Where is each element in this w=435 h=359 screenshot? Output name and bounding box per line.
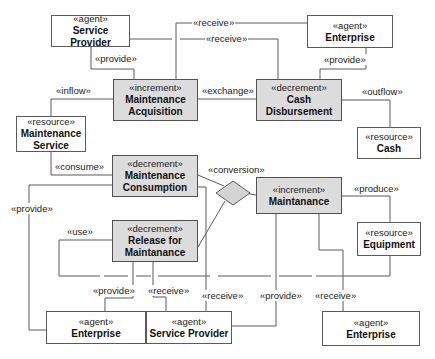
node-name: Enterprise (346, 329, 395, 341)
node-name-line1: Maintenance (21, 128, 82, 140)
label-receive-second: «receive» (205, 33, 248, 44)
resource-cash: «resource» Cash (357, 127, 421, 159)
event-maintenance-consumption: «decrement» Maintenance Consumption (112, 155, 198, 197)
node-name: Maintanance (269, 196, 330, 208)
label-provide-bottom-left: «provide» (92, 285, 136, 296)
stereotype: «agent» (333, 20, 367, 32)
label-outflow: «outflow» (361, 86, 404, 97)
label-provide-service-provider: «provide» (94, 53, 138, 64)
node-name-line2: Service (33, 140, 69, 152)
node-name-line1: Release for (128, 235, 182, 247)
node-name: Equipment (363, 239, 415, 251)
stereotype: «agent» (79, 316, 113, 328)
label-provide-middle: «provide» (259, 290, 303, 301)
stereotype: «resource» (365, 131, 413, 143)
label-use: «use» (66, 226, 94, 237)
agent-enterprise-top: «agent» Enterprise (307, 15, 393, 48)
label-exchange: «exchange» (201, 85, 255, 96)
label-produce: «produce» (353, 183, 400, 194)
node-name-line1: Maintenance (125, 170, 186, 182)
label-receive-bottom-left: «receive» (147, 285, 190, 296)
stereotype: «decrement» (127, 223, 182, 235)
label-provide-left: «provide» (10, 203, 54, 214)
rea-diagram: «agent» Service Provider «agent» Enterpr… (0, 0, 435, 359)
label-consume: «consume» (54, 161, 105, 172)
resource-maintenance-service: «resource» Maintenance Service (16, 116, 86, 152)
stereotype: «resource» (27, 116, 75, 128)
node-name: Cash (377, 143, 401, 155)
node-name: Enterprise (325, 32, 374, 44)
stereotype: «decrement» (127, 158, 182, 170)
node-name-line2: Disbursement (266, 106, 333, 118)
node-name: Service Provider (52, 25, 129, 49)
label-receive-middle: «receive» (201, 290, 244, 301)
label-provide-enterprise: «provide» (323, 54, 367, 65)
stereotype: «increment» (129, 82, 181, 94)
agent-service-provider-bottom: «agent» Service Provider (146, 311, 232, 344)
stereotype: «resource» (365, 227, 413, 239)
stereotype: «increment» (273, 184, 325, 196)
node-name-line2: Maintanance (125, 247, 186, 259)
agent-enterprise-bottom-left: «agent» Enterprise (46, 311, 146, 344)
event-release-for-maintanance: «decrement» Release for Maintanance (112, 220, 198, 262)
label-inflow: «inflow» (55, 85, 92, 96)
resource-equipment: «resource» Equipment (357, 222, 421, 256)
node-name-line1: Cash (287, 94, 311, 106)
event-maintanance: «increment» Maintanance (256, 177, 342, 214)
event-maintenance-acquisition: «increment» Maintenance Acquisition (113, 79, 198, 121)
node-name-line1: Maintenance (125, 94, 186, 106)
event-cash-disbursement: «decrement» Cash Disbursement (256, 79, 342, 121)
stereotype: «agent» (73, 13, 107, 25)
connector-lines (0, 0, 435, 359)
agent-service-provider-top: «agent» Service Provider (51, 15, 130, 47)
node-name-line2: Acquisition (128, 106, 182, 118)
stereotype: «agent» (172, 316, 206, 328)
node-name-line2: Consumption (123, 182, 187, 194)
stereotype: «agent» (354, 317, 388, 329)
node-name: Service Provider (150, 328, 229, 340)
label-receive-bottom-right: «receive» (314, 290, 357, 301)
agent-enterprise-bottom-right: «agent» Enterprise (322, 311, 420, 346)
label-conversion: «conversion» (207, 164, 266, 175)
stereotype: «decrement» (271, 82, 326, 94)
node-name: Enterprise (71, 328, 120, 340)
label-receive-top: «receive» (192, 17, 235, 28)
